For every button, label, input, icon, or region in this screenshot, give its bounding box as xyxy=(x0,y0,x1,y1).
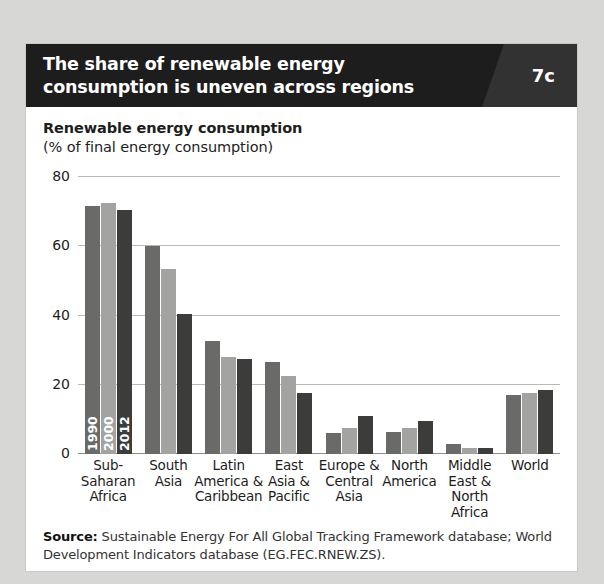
panel-number-label: 7c xyxy=(532,65,555,86)
source-label: Source: xyxy=(43,529,98,544)
y-axis-title: Renewable energy consumption xyxy=(43,119,463,138)
y-axis-tick-20: 20 xyxy=(52,376,70,392)
bar-group xyxy=(265,177,312,454)
x-axis-label: World xyxy=(494,458,566,474)
x-axis-label-line: Asia xyxy=(313,489,385,505)
bar xyxy=(177,314,192,454)
plot-area: 020406080 199020002012 xyxy=(78,177,560,454)
figure-header-banner: The share of renewable energy consumptio… xyxy=(26,44,577,107)
bar xyxy=(297,393,312,454)
figure-card: The share of renewable energy consumptio… xyxy=(26,44,577,571)
series-inline-label-1990: 1990 xyxy=(85,404,100,454)
series-inline-label-text: 2012 xyxy=(117,416,132,451)
bar xyxy=(342,428,357,454)
bar xyxy=(506,395,521,454)
y-axis-tick-0: 0 xyxy=(61,445,70,461)
bar xyxy=(205,341,220,454)
y-axis-title-block: Renewable energy consumption (% of final… xyxy=(43,119,463,157)
figure-title-line-1: The share of renewable energy xyxy=(43,54,345,74)
figure-title-line-2: consumption is uneven across regions xyxy=(43,76,463,99)
bar xyxy=(462,448,477,454)
x-axis-label-line: East & xyxy=(434,474,506,490)
bar xyxy=(402,428,417,454)
bar xyxy=(161,269,176,454)
y-axis-tick-40: 40 xyxy=(52,307,70,323)
bar-group: 199020002012 xyxy=(85,177,132,454)
bar xyxy=(386,432,401,455)
source-note: Source: Sustainable Energy For All Globa… xyxy=(43,528,563,564)
y-axis-units: (% of final energy consumption) xyxy=(43,138,463,157)
series-inline-label-text: 1990 xyxy=(85,416,100,451)
bar xyxy=(237,359,252,454)
series-inline-label-text: 2000 xyxy=(101,416,116,451)
x-axis-label-line: Africa xyxy=(72,489,144,505)
x-axis-label-line: Africa xyxy=(434,505,506,521)
bars-layer: 199020002012 xyxy=(78,177,560,454)
bar xyxy=(221,357,236,454)
bar xyxy=(265,362,280,454)
series-inline-label-2000: 2000 xyxy=(101,404,116,454)
bar-group xyxy=(145,177,192,454)
panel-number-plate: 7c xyxy=(482,44,577,107)
y-axis-tick-80: 80 xyxy=(52,168,70,184)
bar xyxy=(446,444,461,454)
bar xyxy=(281,376,296,454)
bar-group xyxy=(446,177,493,454)
figure-title: The share of renewable energy consumptio… xyxy=(43,53,463,99)
y-axis-tick-60: 60 xyxy=(52,237,70,253)
bar-group xyxy=(326,177,373,454)
bar xyxy=(326,433,341,454)
bar xyxy=(358,416,373,454)
x-axis-label-line: North xyxy=(434,489,506,505)
source-text: Sustainable Energy For All Global Tracki… xyxy=(43,529,552,562)
bar-group xyxy=(506,177,553,454)
bar xyxy=(418,421,433,454)
bar-group xyxy=(386,177,433,454)
bar xyxy=(522,393,537,454)
series-inline-label-2012: 2012 xyxy=(117,404,132,454)
bar-group xyxy=(205,177,252,454)
bar xyxy=(538,390,553,454)
bar xyxy=(478,448,493,454)
bar xyxy=(145,246,160,454)
x-axis-label-line: World xyxy=(494,458,566,474)
